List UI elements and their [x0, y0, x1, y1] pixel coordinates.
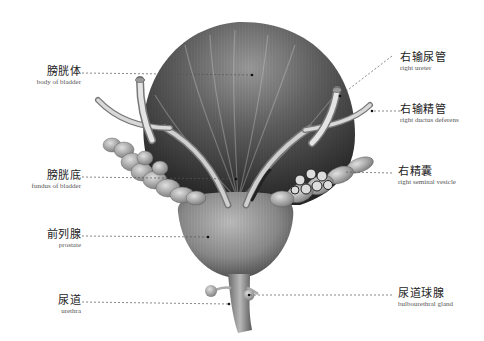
label-en: right ureter	[400, 65, 446, 72]
label-en: prostate	[47, 242, 82, 249]
urethra-shape	[228, 274, 252, 333]
label-zh: 尿道球腺	[398, 288, 453, 299]
label-en: bulbourethral gland	[398, 301, 453, 308]
label-en: right ductus deferens	[400, 117, 459, 124]
label-bulbourethral-gland: 尿道球腺 bulbourethral gland	[398, 288, 453, 308]
label-zh: 右输精管	[400, 104, 459, 115]
label-prostate: 前列腺 prostate	[47, 229, 82, 249]
label-right-seminal-vesicle: 右精囊 right seminal vesicle	[398, 166, 456, 186]
label-zh: 右精囊	[398, 166, 456, 177]
label-en: body of bladder	[37, 79, 81, 86]
label-body-of-bladder: 膀胱体 body of bladder	[37, 66, 81, 86]
label-zh: 前列腺	[47, 229, 82, 240]
label-fundus-of-bladder: 膀胱底 fundus of bladder	[32, 170, 81, 190]
label-zh: 尿道	[58, 295, 81, 306]
label-en: right seminal vesicle	[398, 179, 456, 186]
label-right-ureter: 右输尿管 right ureter	[400, 52, 446, 72]
label-en: fundus of bladder	[32, 183, 81, 190]
label-urethra: 尿道 urethra	[58, 295, 81, 315]
label-zh: 膀胱底	[32, 170, 81, 181]
label-en: urethra	[58, 308, 81, 315]
label-zh: 膀胱体	[37, 66, 81, 77]
label-zh: 右输尿管	[400, 52, 446, 63]
label-right-ductus-deferens: 右输精管 right ductus deferens	[400, 104, 459, 124]
